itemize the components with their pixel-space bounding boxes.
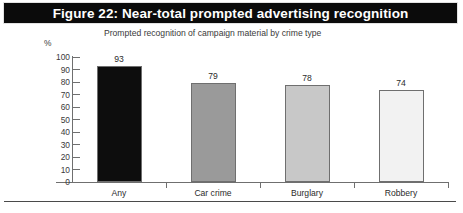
y-axis-tick-mark — [73, 107, 80, 108]
y-axis-tick-mark — [73, 57, 80, 58]
y-axis-tick-label: 10 — [61, 165, 70, 175]
y-axis-tick-mark — [73, 132, 80, 133]
y-axis-unit-label: % — [44, 38, 51, 48]
y-axis-tick-label: 50 — [61, 115, 70, 125]
y-axis-tick-label: 30 — [61, 140, 70, 150]
y-axis-tick-label: 40 — [61, 127, 70, 137]
bar-robbery[interactable] — [379, 90, 424, 183]
y-axis-tick: 100 — [40, 52, 80, 62]
y-axis-tick: 10 — [40, 165, 80, 175]
y-axis-tick-label: 60 — [61, 102, 70, 112]
x-axis-separator — [354, 182, 355, 188]
y-axis-tick: 90 — [40, 65, 80, 75]
footer-divider — [4, 201, 456, 202]
x-axis-separator — [166, 182, 167, 188]
bar-value-label: 74 — [381, 78, 421, 88]
y-axis-tick-label: 0 — [65, 177, 70, 187]
y-axis-tick-label: 90 — [61, 65, 70, 75]
y-axis-tick-label: 100 — [56, 52, 70, 62]
y-axis-tick-mark — [73, 94, 80, 95]
bar-car-crime[interactable] — [191, 83, 236, 182]
figure-container: Figure 22: Near-total prompted advertisi… — [0, 0, 463, 213]
y-axis-tick-mark — [73, 182, 80, 183]
y-axis-tick-mark — [73, 144, 80, 145]
y-axis-tick: 0 — [40, 177, 80, 187]
bar-any[interactable] — [97, 66, 142, 182]
x-axis-category-label: Any — [74, 188, 164, 198]
y-axis-tick-mark — [73, 119, 80, 120]
y-axis-tick-label: 80 — [61, 77, 70, 87]
y-axis-tick: 20 — [40, 152, 80, 162]
x-axis-category-label: Robbery — [356, 188, 446, 198]
y-axis-tick: 30 — [40, 140, 80, 150]
bar-burglary[interactable] — [285, 85, 330, 183]
y-axis-tick: 50 — [40, 115, 80, 125]
plot-area: % 0102030405060708090100 93Any79Car crim… — [0, 0, 463, 213]
y-axis-tick-mark — [73, 169, 80, 170]
y-axis-tick-mark — [73, 69, 80, 70]
bar-value-label: 93 — [99, 54, 139, 64]
y-axis-tick-label: 70 — [61, 90, 70, 100]
y-axis-tick: 70 — [40, 90, 80, 100]
x-axis-category-label: Burglary — [262, 188, 352, 198]
x-axis-category-label: Car crime — [168, 188, 258, 198]
y-axis-tick-label: 20 — [61, 152, 70, 162]
y-axis-tick-mark — [73, 82, 80, 83]
y-axis-tick: 40 — [40, 127, 80, 137]
y-axis-tick-mark — [73, 157, 80, 158]
y-axis-tick: 80 — [40, 77, 80, 87]
y-axis-tick: 60 — [40, 102, 80, 112]
x-axis-separator — [260, 182, 261, 188]
bar-value-label: 78 — [287, 73, 327, 83]
x-axis-separator — [448, 182, 449, 188]
bar-value-label: 79 — [193, 71, 233, 81]
x-axis-line — [56, 182, 448, 183]
